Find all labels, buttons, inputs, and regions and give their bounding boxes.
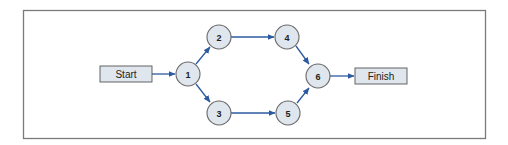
node-5: 5	[276, 101, 300, 125]
start-label: Start	[115, 69, 136, 80]
node-1-label: 1	[185, 70, 190, 80]
node-2: 2	[207, 25, 231, 49]
node-6: 6	[306, 64, 330, 88]
edge-1-2	[196, 47, 210, 64]
node-4: 4	[275, 25, 299, 49]
network-diagram: Start Finish 1 2 3 4 5 6	[0, 0, 508, 145]
finish-label: Finish	[368, 71, 395, 82]
node-2-label: 2	[216, 33, 221, 43]
edge-1-3	[196, 84, 210, 102]
edge-5-6	[297, 88, 309, 103]
diagram-frame	[24, 11, 486, 139]
node-3-label: 3	[216, 109, 221, 119]
node-3: 3	[207, 101, 231, 125]
start-terminal: Start	[100, 66, 152, 82]
node-5-label: 5	[285, 109, 290, 119]
edge-4-6	[296, 46, 309, 64]
node-1: 1	[176, 62, 200, 86]
node-6-label: 6	[315, 72, 320, 82]
node-4-label: 4	[284, 33, 289, 43]
finish-terminal: Finish	[355, 68, 407, 84]
